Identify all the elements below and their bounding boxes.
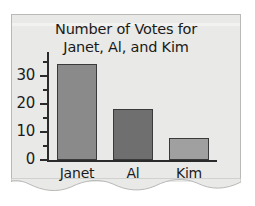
y-tick-major: 10 bbox=[40, 131, 49, 133]
chart-title: Number of Votes for Janet, Al, and Kim bbox=[11, 20, 241, 56]
y-axis-line bbox=[47, 52, 49, 160]
chart-screenshot: Number of Votes for Janet, Al, and Kim 0… bbox=[0, 0, 255, 206]
y-tick-label: 20 bbox=[17, 93, 36, 111]
y-tick-label: 10 bbox=[17, 122, 36, 140]
x-axis-line bbox=[47, 160, 217, 162]
y-tick-label: 0 bbox=[26, 150, 35, 168]
y-tick-minor bbox=[43, 61, 49, 63]
bar-janet bbox=[57, 64, 97, 160]
y-tick-minor bbox=[43, 89, 49, 91]
x-tick-label: Janet bbox=[60, 165, 95, 181]
y-tick-major: 30 bbox=[40, 75, 49, 77]
x-tick-label: Al bbox=[126, 165, 139, 181]
plot-area: 0102030 JanetAlKim bbox=[47, 56, 215, 160]
y-tick-minor bbox=[43, 145, 49, 147]
bar-al bbox=[113, 109, 153, 160]
bar-kim bbox=[169, 138, 209, 160]
y-tick-major: 0 bbox=[40, 159, 49, 161]
y-tick-label: 30 bbox=[17, 65, 36, 83]
chart-title-line-2: Janet, Al, and Kim bbox=[11, 38, 241, 56]
x-tick-label: Kim bbox=[176, 165, 202, 181]
y-tick-minor bbox=[43, 117, 49, 119]
chart-title-line-1: Number of Votes for bbox=[55, 21, 197, 37]
y-tick-major: 20 bbox=[40, 103, 49, 105]
